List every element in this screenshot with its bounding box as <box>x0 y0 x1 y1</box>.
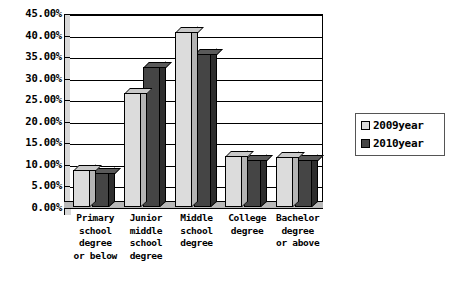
y-tick-label: 40.00% <box>0 30 62 40</box>
y-tick-label: 45.00% <box>0 8 62 18</box>
bar-front-face <box>276 157 293 207</box>
y-axis: 45.00%40.00%35.00%30.00%25.00%20.00%15.0… <box>0 0 62 215</box>
y-tick-mark <box>64 57 70 58</box>
bar-2009year-4[interactable] <box>276 157 293 207</box>
legend-swatch-2009 <box>361 121 370 130</box>
x-category-line: or below <box>70 250 121 263</box>
bar-2009year-2[interactable] <box>175 32 192 207</box>
y-tick-label: 25.00% <box>0 94 62 104</box>
x-category-line: or above <box>272 237 323 250</box>
bar-side-face <box>242 151 248 207</box>
x-category-line: Bachelor <box>272 212 323 225</box>
x-category-label: Middleschooldegree <box>171 212 222 250</box>
x-category-line: degree <box>171 237 222 250</box>
y-tick-mark <box>64 165 70 166</box>
x-category-line: Primary <box>70 212 121 225</box>
x-category-line: school <box>121 237 172 250</box>
x-category-line: degree <box>70 237 121 250</box>
y-tick-mark <box>64 79 70 80</box>
x-category-line: College <box>222 212 273 225</box>
x-category-line: Junior <box>121 212 172 225</box>
bar-side-face <box>312 155 318 207</box>
bar-front-face <box>225 156 242 207</box>
legend-item-2009[interactable]: 2009year <box>361 117 424 133</box>
legend-label-2009: 2009year <box>373 119 424 132</box>
x-axis-labels: Primaryschooldegreeor belowJuniormiddles… <box>64 212 334 282</box>
y-tick-label: 10.00% <box>0 159 62 169</box>
x-category-line: degree <box>272 225 323 238</box>
y-tick-label: 15.00% <box>0 137 62 147</box>
plot-area <box>70 14 323 208</box>
x-category-line: school <box>70 225 121 238</box>
bar-side-face <box>211 49 217 207</box>
y-tick-mark <box>64 14 70 15</box>
x-category-line: degree <box>222 225 273 238</box>
bar-2009year-3[interactable] <box>225 156 242 207</box>
x-category-label: Juniormiddleschooldegree <box>121 212 172 262</box>
legend: 2009year 2010year <box>355 113 445 156</box>
bar-2009year-1[interactable] <box>124 93 141 207</box>
x-category-line: school <box>171 225 222 238</box>
y-tick-mark <box>64 186 70 187</box>
bar-chart: 45.00%40.00%35.00%30.00%25.00%20.00%15.0… <box>0 0 454 282</box>
bar-side-face <box>90 165 96 207</box>
y-tick-mark <box>64 36 70 37</box>
y-tick-mark <box>64 208 70 209</box>
legend-label-2010: 2010year <box>373 137 424 150</box>
bar-front-face <box>175 32 192 207</box>
x-category-label: Bachelordegreeor above <box>272 212 323 250</box>
bar-front-face <box>73 170 90 207</box>
gridline <box>70 15 322 16</box>
y-tick-label: 0.00% <box>0 202 62 212</box>
bar-side-face <box>293 152 299 207</box>
bar-front-face <box>124 93 141 207</box>
y-tick-mark <box>64 122 70 123</box>
bar-side-face <box>141 87 147 207</box>
bar-2009year-0[interactable] <box>73 170 90 207</box>
y-tick-mark <box>64 100 70 101</box>
x-category-line: degree <box>121 250 172 263</box>
y-tick-label: 5.00% <box>0 180 62 190</box>
bar-side-face <box>192 27 198 207</box>
x-category-label: Collegedegree <box>222 212 273 237</box>
x-category-label: Primaryschooldegreeor below <box>70 212 121 262</box>
y-tick-label: 30.00% <box>0 73 62 83</box>
legend-item-2010[interactable]: 2010year <box>361 135 424 151</box>
bar-side-face <box>160 61 166 207</box>
y-tick-label: 20.00% <box>0 116 62 126</box>
y-tick-mark <box>64 143 70 144</box>
legend-swatch-2010 <box>361 139 370 148</box>
y-tick-label: 35.00% <box>0 51 62 61</box>
bar-side-face <box>261 155 267 207</box>
x-category-line: middle <box>121 225 172 238</box>
x-category-line: Middle <box>171 212 222 225</box>
